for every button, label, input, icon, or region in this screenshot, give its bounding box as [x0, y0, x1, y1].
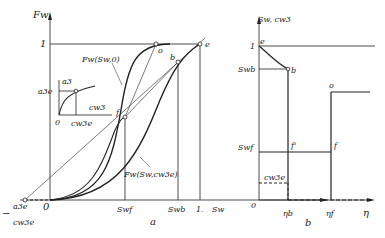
b-origin: 0: [251, 201, 256, 210]
a-y-axis-label: Fw: [32, 9, 49, 20]
a-left-tick-top: a3e: [13, 202, 28, 211]
inset-x-tick: cw3e: [71, 119, 92, 128]
a-tick-swf: Swf: [117, 205, 134, 214]
point-o: o: [158, 46, 163, 55]
point-b: b: [170, 53, 175, 62]
curve-upper-label: Fw(Sw,0): [81, 55, 120, 64]
inset-x-label: cw3: [89, 103, 105, 112]
b-point-e: e: [260, 37, 265, 46]
b-point-b: b: [291, 66, 296, 75]
diagram-canvas: Fw 1 0 a3e − cw3e Swf Swb 1. Sw a Fw(Sw,…: [0, 0, 385, 238]
inset-origin: 0: [55, 118, 60, 127]
inset-y-tick: a3e: [38, 87, 53, 96]
a-caption: a: [150, 216, 156, 227]
b-caption: b: [305, 217, 311, 228]
b-x-axis-label: η: [363, 207, 369, 218]
inset-y-label: a3: [62, 77, 72, 86]
b-tick-eta-f: ηf: [326, 209, 336, 218]
b-point-o: o: [329, 81, 334, 90]
b-point-f-prime: f': [290, 141, 296, 150]
b-tick-swf: Swf: [238, 143, 255, 152]
b-tick-one: 1: [250, 42, 255, 51]
a-left-tick-bottom: cw3e: [13, 218, 34, 227]
b-y-axis-label: Sw, cw3: [258, 15, 291, 24]
b-point-f: f: [333, 141, 339, 150]
a-tick-one: 1: [40, 38, 46, 49]
b-tick-swb: Swb: [238, 65, 255, 74]
b-tick-eta-b: ηb: [283, 209, 293, 218]
a-tick-swb: Swb: [168, 205, 185, 214]
curve-lower-label: Fw(Sw,cw3e): [123, 170, 178, 179]
b-conc-label: cw3e: [264, 173, 285, 182]
a-origin: 0: [43, 201, 50, 212]
point-e: e: [205, 40, 210, 49]
a-left-tick-sign: −: [2, 208, 10, 219]
a-x-axis-label: Sw: [212, 205, 224, 214]
a-tick-one-x: 1.: [196, 205, 204, 214]
